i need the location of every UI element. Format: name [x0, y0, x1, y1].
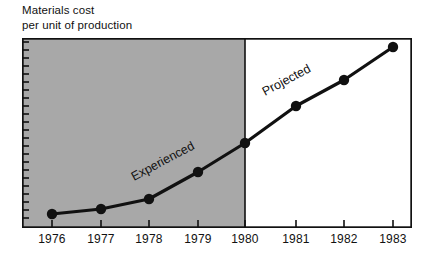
chart-title: Materials cost per unit of production [22, 3, 132, 32]
chart-title-line-2: per unit of production [22, 19, 132, 31]
x-tick-label-1976: 1976 [30, 232, 74, 246]
x-tick-label-1978: 1978 [127, 232, 171, 246]
chart-figure: Materials cost per unit of production [0, 0, 427, 262]
data-point-1977 [96, 204, 106, 214]
x-tick-label-1980: 1980 [223, 232, 267, 246]
plot-area: Experienced Projected 1976 1977 1978 197… [22, 38, 412, 228]
unshaded-region-projected [245, 38, 412, 228]
shaded-region-experienced [22, 38, 245, 228]
x-tick-label-1983: 1983 [371, 232, 415, 246]
data-point-1979 [193, 167, 203, 177]
data-point-1983 [388, 42, 398, 52]
x-tick-label-1979: 1979 [176, 232, 220, 246]
line-chart-svg: Experienced Projected [22, 38, 412, 228]
data-point-1981 [291, 101, 301, 111]
data-point-1980 [240, 138, 250, 148]
x-tick-label-1981: 1981 [274, 232, 318, 246]
x-tick-label-1977: 1977 [79, 232, 123, 246]
chart-title-line-1: Materials cost [22, 4, 94, 16]
data-point-1978 [144, 194, 154, 204]
data-point-1976 [47, 209, 57, 219]
data-point-1982 [339, 75, 349, 85]
x-tick-label-1982: 1982 [322, 232, 366, 246]
